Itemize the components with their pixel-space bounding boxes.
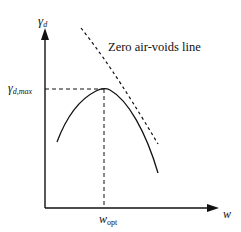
x-axis-label: w	[223, 208, 231, 220]
compaction-diagram: γd γd,max Zero air-voids line wopt w	[0, 0, 241, 232]
y-axis-arrow-icon	[41, 28, 49, 40]
x-axis-arrow-icon	[207, 204, 219, 212]
diagram-graphics	[0, 0, 241, 232]
w-opt-label: wopt	[99, 213, 117, 227]
zero-air-voids-label: Zero air-voids line	[108, 41, 201, 54]
gamma-max-label: γd,max	[8, 82, 32, 96]
y-axis-label: γd	[38, 14, 47, 29]
compaction-curve	[57, 89, 158, 173]
